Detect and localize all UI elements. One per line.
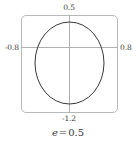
tick-label-bottom: -1.2 [62, 114, 76, 123]
tick-label-top: 0.5 [63, 3, 75, 12]
figure-caption: e=0.5 [0, 126, 136, 139]
figure-container: 0.5 -1.2 -0.8 0.8 e=0.5 [0, 0, 136, 144]
caption-variable: e [52, 127, 58, 138]
tick-label-left: -0.8 [5, 43, 19, 52]
caption-value: 0.5 [68, 127, 84, 138]
tick-label-right: 0.8 [120, 43, 132, 52]
caption-operator: = [58, 127, 68, 138]
